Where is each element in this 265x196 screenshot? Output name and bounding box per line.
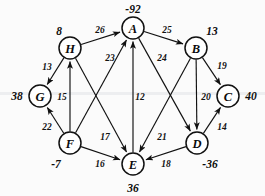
node-label-f: F — [66, 136, 74, 151]
edge-weight-h-a: 26 — [95, 25, 105, 35]
edge-weight-a-b: 25 — [162, 25, 172, 35]
node-label-a: A — [129, 21, 137, 36]
node-value-e: 36 — [127, 182, 139, 194]
edge-weight-d-c: 14 — [217, 122, 227, 132]
node-label-b: B — [192, 41, 200, 56]
edge-weight-f-g: 22 — [42, 122, 52, 132]
edge-weight-d-e: 18 — [161, 159, 171, 169]
edge-b-to-d — [196, 60, 197, 130]
edge-weight-h-g: 13 — [42, 62, 52, 72]
node-value-d: -36 — [202, 158, 217, 170]
edge-weight-f-e: 16 — [95, 159, 105, 169]
graph-figure: 262513191520232412221417211618A-92B13C40… — [0, 0, 265, 196]
node-label-c: C — [224, 89, 232, 104]
edge-weight-b-c: 19 — [217, 61, 227, 71]
node-value-a: -92 — [125, 3, 140, 15]
node-label-h: H — [65, 41, 75, 56]
edge-d-to-e — [146, 147, 186, 160]
node-value-c: 40 — [245, 90, 257, 102]
edge-weight-b-d: 20 — [201, 92, 211, 102]
edge-weight-h-e: 17 — [100, 132, 110, 142]
node-value-h: 8 — [56, 25, 62, 37]
node-value-g: 38 — [11, 90, 23, 102]
node-label-e: E — [129, 157, 137, 172]
node-label-d: D — [192, 136, 201, 151]
edge-weight-e-a: 12 — [135, 92, 145, 102]
edge-f-to-a — [76, 40, 127, 133]
edge-weight-b-e: 21 — [157, 132, 167, 142]
edge-f-to-e — [81, 147, 120, 160]
node-value-b: 13 — [206, 25, 218, 37]
node-label-g: G — [35, 89, 44, 104]
edge-weight-f-h: 15 — [57, 92, 67, 102]
node-value-f: -7 — [51, 158, 61, 170]
edge-weight-f-a: 23 — [105, 53, 115, 63]
edge-weight-a-d: 24 — [157, 53, 167, 63]
